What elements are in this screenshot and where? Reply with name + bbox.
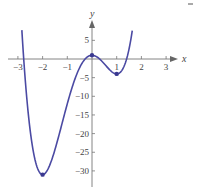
y-tick-label: 5	[85, 35, 90, 45]
y-axis-label: y	[89, 8, 95, 19]
y-tick-label: −20	[75, 129, 90, 139]
y-tick-label: −30	[75, 166, 90, 176]
y-tick-label: −15	[75, 110, 90, 120]
x-tick-label: 2	[139, 62, 144, 72]
y-tick-label: −5	[79, 73, 89, 83]
axes	[8, 20, 178, 187]
chart-plot: −3−2−11235−5−10−15−20−25−30 x y	[0, 0, 197, 191]
x-tick-label: −1	[63, 62, 73, 72]
y-tick-label: −10	[75, 91, 90, 101]
critical-point-marker	[90, 53, 94, 57]
x-tick-label: −3	[13, 62, 23, 72]
y-tick-label: −25	[75, 147, 90, 157]
critical-point-marker	[115, 72, 119, 76]
x-tick-label: −2	[38, 62, 48, 72]
y-axis-arrow-icon	[89, 20, 95, 28]
x-tick-label: 1	[114, 62, 119, 72]
critical-point-marker	[40, 172, 44, 176]
x-tick-label: 3	[164, 62, 169, 72]
x-axis-label: x	[181, 53, 187, 64]
x-axis-arrow-icon	[170, 56, 178, 62]
